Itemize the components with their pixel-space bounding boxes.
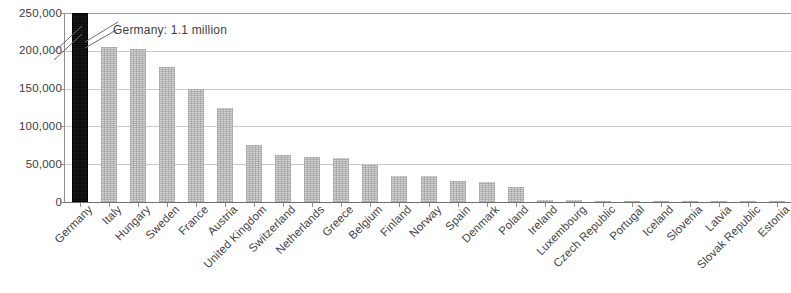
x-tick-label-text: Italy (99, 203, 123, 227)
plot-area (64, 13, 791, 202)
y-tick-label-100000: 100,000 (4, 121, 62, 132)
bar-slovak-republic (740, 201, 756, 202)
bar-latvia (711, 201, 727, 202)
x-axis-labels: GermanyItalyHungarySwedenFranceAustriaUn… (64, 203, 791, 293)
bar-hungary (130, 49, 146, 202)
x-tick-label-text: Poland (496, 203, 530, 237)
bar-spain (450, 181, 466, 202)
x-tick-label-italy: Italy (99, 203, 123, 227)
x-tick-label-text: Norway (407, 203, 443, 239)
bar-finland (391, 176, 407, 202)
bar-greece (333, 158, 349, 202)
bar-denmark (479, 182, 495, 202)
bar-united-kingdom (246, 145, 262, 202)
y-tick-label-200000: 200,000 (4, 45, 62, 56)
bar-estonia (769, 201, 785, 202)
bar-belgium (362, 164, 378, 202)
bar-austria (217, 108, 233, 202)
y-tick-label-50000: 50,000 (4, 159, 62, 170)
germany-callout-label: Germany: 1.1 million (113, 23, 227, 37)
y-axis-labels: 250,000 200,000 150,000 100,000 50,000 0 (0, 0, 62, 215)
bar-netherlands (304, 157, 320, 202)
y-tick-label-0: 0 (4, 197, 62, 208)
bar-switzerland (275, 155, 291, 202)
x-tick-label-poland: Poland (496, 203, 530, 237)
x-tick-label-norway: Norway (407, 203, 443, 239)
bar-france (188, 89, 204, 202)
bar-italy (101, 47, 117, 202)
bar-norway (421, 176, 437, 202)
bar-poland (508, 187, 524, 202)
y-tick-label-250000: 250,000 (4, 8, 62, 19)
bar-series (64, 13, 791, 203)
y-tick-label-150000: 150,000 (4, 83, 62, 94)
x-tick-label-text: France (176, 203, 210, 237)
x-tick-label-text: Estonia (756, 203, 791, 239)
bar-sweden (159, 67, 175, 202)
bar-chart: 250,000 200,000 150,000 100,000 50,000 0… (0, 0, 791, 293)
x-tick-label-estonia: Estonia (756, 203, 791, 239)
x-tick-label-france: France (176, 203, 210, 237)
